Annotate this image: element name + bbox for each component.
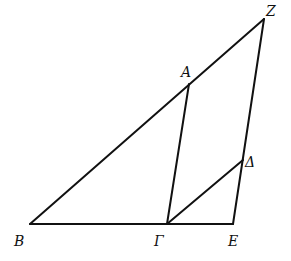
segment-gamma-delta xyxy=(167,160,243,224)
label-a: A xyxy=(179,64,191,80)
label-e: E xyxy=(227,233,238,249)
label-gamma: Γ xyxy=(153,233,165,249)
segment-ze xyxy=(233,19,264,224)
label-b: B xyxy=(13,233,24,249)
segment-bz xyxy=(30,19,264,224)
segment-a-gamma xyxy=(167,84,189,224)
label-z: Z xyxy=(265,3,276,19)
label-delta: Δ xyxy=(244,154,255,170)
geometry-diagram: Z A Δ B Γ E xyxy=(0,0,291,261)
